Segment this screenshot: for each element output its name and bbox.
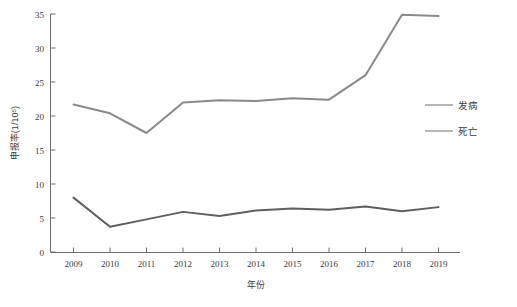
x-tick-label: 2016 <box>320 259 339 269</box>
x-tick-label: 2013 <box>211 259 230 269</box>
y-tick-label: 20 <box>35 112 45 122</box>
x-tick-label: 2009 <box>65 259 84 269</box>
y-axis-ticks: 35 30 25 20 15 10 5 0 <box>35 10 56 258</box>
y-axis-title: 申报率(1/10⁵) <box>9 106 20 160</box>
y-tick-label: 10 <box>35 180 45 190</box>
chart-figure: 35 30 25 20 15 10 5 0 2009 2010 2011 <box>0 0 517 307</box>
legend-item-mortality[interactable]: 死亡 <box>425 126 478 137</box>
x-tick-label: 2015 <box>284 259 303 269</box>
series-line-mortality <box>74 198 439 227</box>
legend-item-incidence[interactable]: 发病 <box>425 100 478 111</box>
y-tick-label: 5 <box>40 214 45 224</box>
x-tick-label: 2014 <box>247 259 266 269</box>
x-tick-label: 2012 <box>174 259 192 269</box>
x-tick-label: 2010 <box>101 259 120 269</box>
y-tick-label: 25 <box>35 78 45 88</box>
y-tick-label: 0 <box>40 248 45 258</box>
x-tick-label: 2011 <box>138 259 156 269</box>
y-tick-label: 35 <box>35 10 45 20</box>
x-axis-ticks: 2009 2010 2011 2012 2013 2014 2015 2016 … <box>65 248 449 270</box>
x-tick-label: 2018 <box>393 259 412 269</box>
chart-legend: 发病 死亡 <box>425 100 478 137</box>
x-tick-label: 2017 <box>357 259 376 269</box>
y-tick-label: 15 <box>35 146 45 156</box>
y-tick-label: 30 <box>35 44 45 54</box>
x-tick-label: 2019 <box>430 259 449 269</box>
legend-label: 死亡 <box>458 126 478 137</box>
series-line-incidence <box>74 15 439 133</box>
line-chart-canvas: 35 30 25 20 15 10 5 0 2009 2010 2011 <box>0 0 517 307</box>
legend-label: 发病 <box>458 100 478 111</box>
x-axis-title: 年份 <box>247 279 265 290</box>
